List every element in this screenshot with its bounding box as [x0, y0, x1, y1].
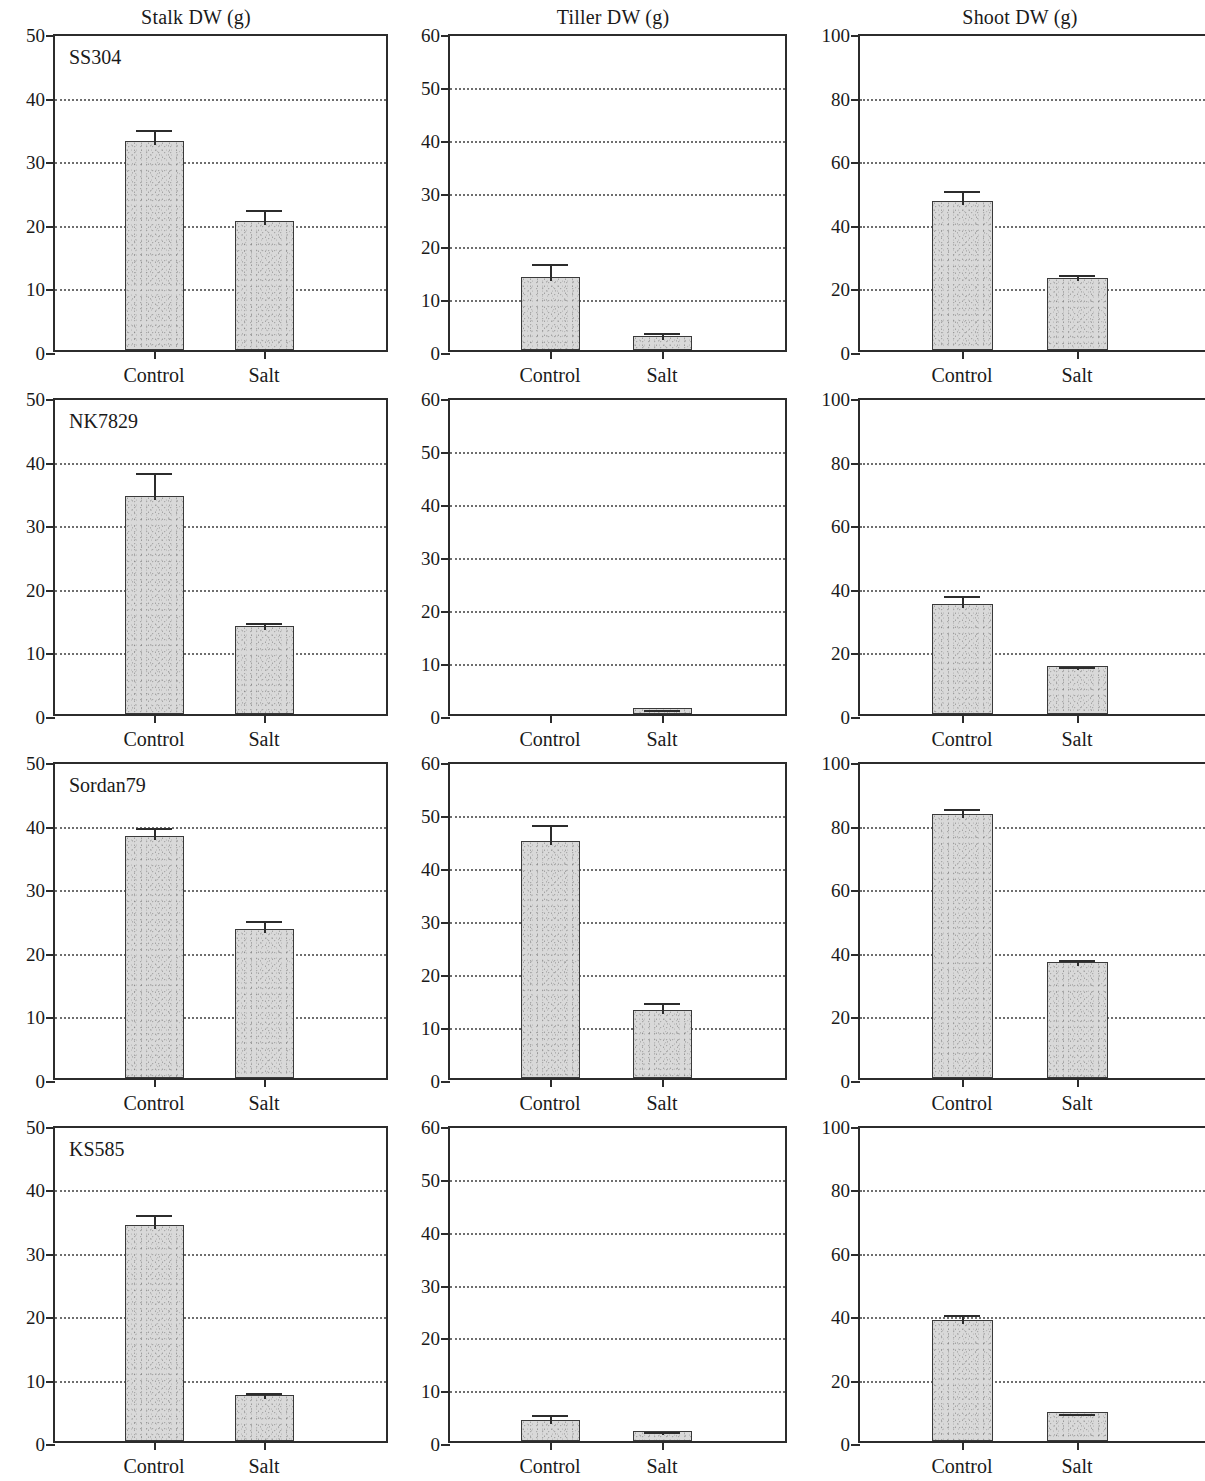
y-tick-label: 10	[421, 290, 440, 312]
gridline	[450, 922, 785, 924]
y-tick-mark	[441, 664, 450, 666]
gridline	[55, 463, 386, 465]
y-tick-label: 60	[831, 1244, 850, 1266]
y-tick-label: 50	[26, 1117, 45, 1139]
error-bar-stem	[154, 1215, 156, 1229]
y-tick-label: 100	[822, 753, 851, 775]
y-tick-mark	[441, 353, 450, 355]
y-tick-mark	[46, 1317, 55, 1319]
y-tick-label: 20	[26, 216, 45, 238]
y-tick-label: 0	[36, 343, 46, 365]
error-bar-cap	[1059, 275, 1096, 277]
x-tick-mark	[550, 714, 552, 723]
error-bar-cap	[944, 191, 981, 193]
plot-area: 0102030405060ControlSalt	[448, 34, 787, 352]
y-tick-label: 10	[421, 1381, 440, 1403]
gridline	[450, 1391, 785, 1393]
y-tick-label: 60	[421, 25, 440, 47]
y-tick-mark	[46, 763, 55, 765]
gridline	[55, 590, 386, 592]
plot-area: 01020304050SS304ControlSalt	[53, 34, 388, 352]
x-tick-mark	[962, 350, 964, 359]
gridline	[55, 1317, 386, 1319]
gridline	[450, 869, 785, 871]
plot-area: 020406080100ControlSalt	[858, 34, 1205, 352]
y-tick-mark	[46, 717, 55, 719]
y-tick-label: 100	[822, 25, 851, 47]
y-tick-mark	[441, 869, 450, 871]
y-tick-label: 0	[431, 707, 441, 729]
x-tick-label-salt: Salt	[646, 1455, 677, 1478]
y-tick-label: 20	[831, 1007, 850, 1029]
bar-control	[521, 841, 580, 1078]
y-tick-mark	[441, 1286, 450, 1288]
error-bar-cap	[136, 828, 171, 830]
y-tick-label: 40	[831, 1307, 850, 1329]
y-tick-mark	[851, 526, 860, 528]
chart-panel-r4-c2: 0102030405060ControlSalt	[448, 1126, 787, 1443]
bar-control	[125, 1225, 184, 1441]
gridline	[860, 526, 1205, 528]
plot-area: 0102030405060ControlSalt	[448, 398, 787, 716]
gridline	[450, 1180, 785, 1182]
y-tick-mark	[851, 763, 860, 765]
y-tick-label: 0	[431, 343, 441, 365]
y-tick-label: 50	[26, 389, 45, 411]
bar-control	[932, 201, 993, 350]
error-bar-cap	[1059, 1414, 1096, 1416]
y-tick-label: 40	[831, 580, 850, 602]
gridline	[55, 1254, 386, 1256]
y-tick-label: 0	[841, 1071, 851, 1093]
y-tick-mark	[46, 1444, 55, 1446]
y-tick-mark	[441, 247, 450, 249]
bar-salt	[1047, 1412, 1108, 1441]
x-tick-label-salt: Salt	[1061, 364, 1092, 387]
gridline	[55, 1017, 386, 1019]
y-tick-mark	[851, 653, 860, 655]
y-tick-label: 20	[421, 601, 440, 623]
plot-area: 01020304050KS585ControlSalt	[53, 1126, 388, 1443]
x-tick-mark	[962, 1078, 964, 1087]
error-bar-stem	[154, 130, 156, 145]
x-tick-mark	[264, 350, 266, 359]
y-tick-label: 60	[421, 753, 440, 775]
error-bar-stem	[264, 210, 266, 225]
y-tick-label: 60	[831, 516, 850, 538]
y-tick-label: 60	[831, 152, 850, 174]
chart-panel-r2-c1: 01020304050NK7829ControlSalt	[53, 398, 388, 716]
y-tick-label: 50	[421, 78, 440, 100]
y-tick-mark	[441, 1180, 450, 1182]
y-tick-mark	[46, 1017, 55, 1019]
plot-area: 020406080100ControlSalt	[858, 398, 1205, 716]
y-tick-mark	[46, 226, 55, 228]
error-bar-cap	[532, 825, 567, 827]
y-tick-label: 80	[831, 453, 850, 475]
gridline	[55, 1190, 386, 1192]
error-bar-cap	[1059, 960, 1096, 962]
y-tick-mark	[851, 1444, 860, 1446]
gridline	[55, 653, 386, 655]
y-tick-label: 30	[26, 880, 45, 902]
x-tick-mark	[662, 1441, 664, 1450]
y-tick-label: 50	[26, 753, 45, 775]
x-tick-label-salt: Salt	[248, 728, 279, 751]
chart-panel-r3-c1: 01020304050Sordan79ControlSalt	[53, 762, 388, 1080]
y-tick-mark	[441, 300, 450, 302]
y-tick-label: 60	[421, 389, 440, 411]
gridline	[860, 289, 1205, 291]
error-bar-cap	[1059, 667, 1096, 669]
x-tick-mark	[662, 714, 664, 723]
gridline	[450, 611, 785, 613]
error-bar-stem	[154, 473, 156, 500]
y-tick-mark	[46, 162, 55, 164]
x-tick-mark	[154, 1078, 156, 1087]
y-tick-label: 100	[822, 1117, 851, 1139]
y-tick-mark	[441, 35, 450, 37]
error-bar-cap	[944, 1315, 981, 1317]
y-tick-label: 0	[841, 1434, 851, 1456]
y-tick-mark	[46, 590, 55, 592]
x-tick-mark	[1077, 1078, 1079, 1087]
plot-area: 01020304050Sordan79ControlSalt	[53, 762, 388, 1080]
y-tick-label: 50	[26, 25, 45, 47]
x-tick-mark	[264, 1078, 266, 1087]
